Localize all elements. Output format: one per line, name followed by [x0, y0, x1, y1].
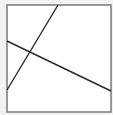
- intersecting-lines-diagram: [0, 0, 113, 115]
- diagram-canvas: [0, 0, 113, 115]
- square-frame: [7, 5, 111, 112]
